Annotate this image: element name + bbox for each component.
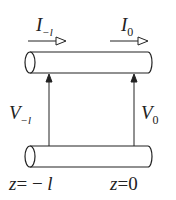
voltage-subscript: −l	[21, 114, 31, 126]
position-sign: −	[32, 173, 43, 194]
top-conductor-icon	[25, 52, 152, 73]
voltage-label-left: V−l	[9, 102, 31, 124]
transmission-line-diagram: I−l I0 V−l V0 z= − l z=0	[0, 0, 176, 200]
position-label-right: z=0	[110, 173, 138, 195]
current-subscript: 0	[127, 25, 133, 39]
current-arrow-left-icon	[28, 37, 66, 45]
position-value: 0	[128, 173, 138, 194]
voltage-label-right: V0	[141, 102, 159, 124]
voltage-arrow-left-icon	[46, 74, 52, 146]
voltage-symbol: V	[141, 102, 153, 123]
position-label-left: z= − l	[9, 173, 53, 195]
voltage-symbol: V	[9, 102, 21, 123]
current-subscript: −l	[42, 26, 52, 38]
position-eq: =	[16, 173, 27, 194]
bottom-conductor-icon	[25, 146, 152, 167]
position-value-var: l	[47, 173, 52, 194]
current-label-left: I−l	[36, 14, 53, 36]
current-label-right: I0	[121, 14, 133, 36]
diagram-graphics	[0, 0, 176, 200]
voltage-subscript: 0	[153, 113, 159, 127]
voltage-arrow-right-icon	[131, 74, 137, 146]
position-eq: =	[117, 173, 128, 194]
